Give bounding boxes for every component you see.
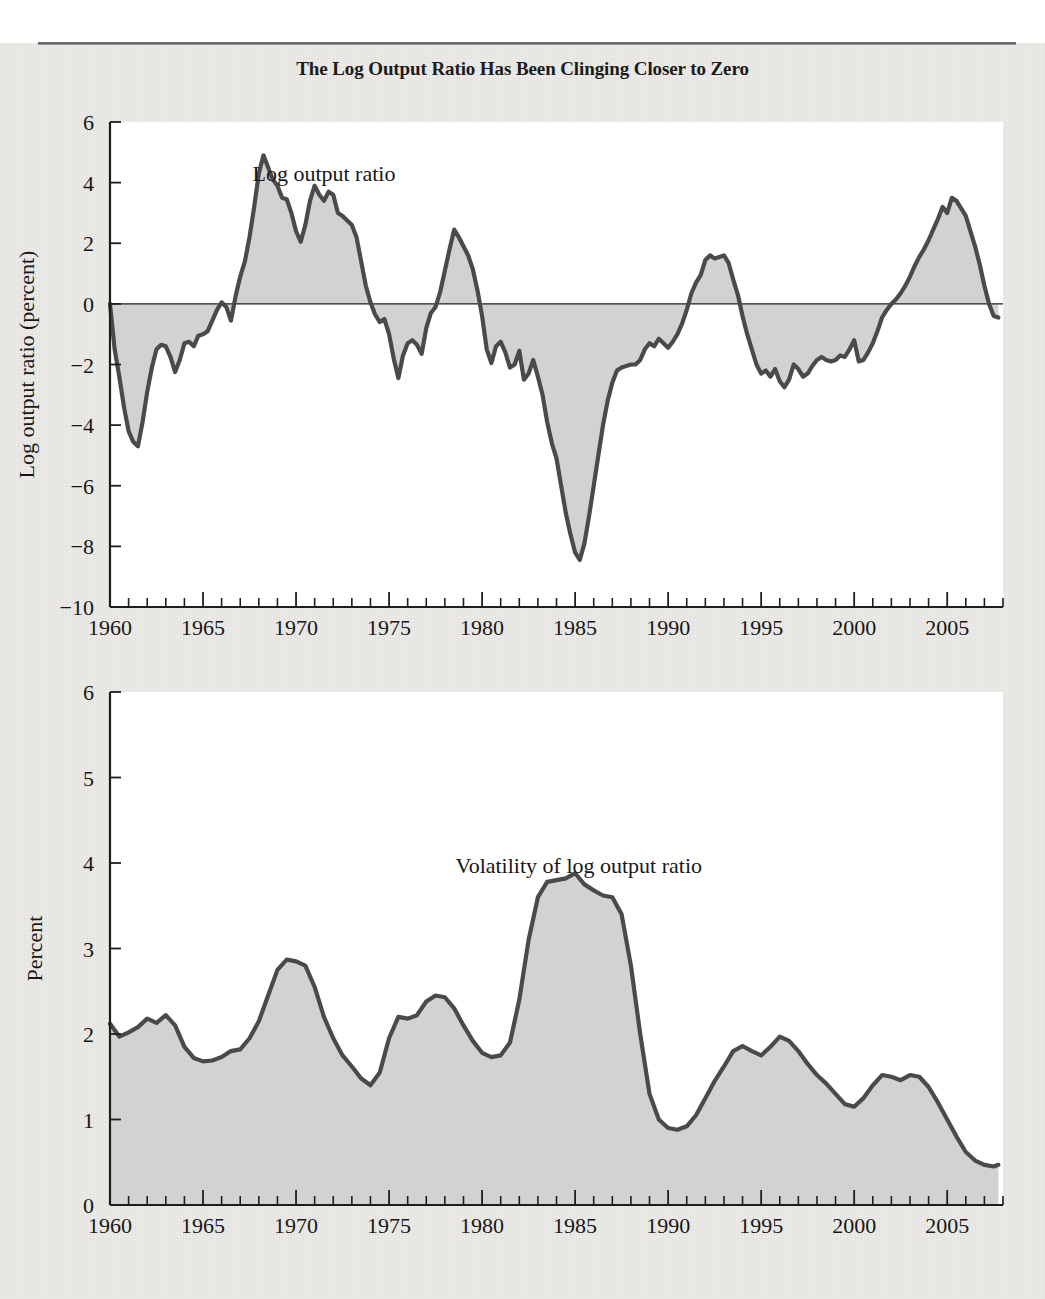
- x-tick-label: 1975: [367, 615, 411, 640]
- y-tick-label: 1: [83, 1108, 94, 1133]
- y-tick-label: 2: [83, 1022, 94, 1047]
- x-tick-label: 1985: [553, 615, 597, 640]
- x-tick-label: 1960: [88, 1213, 132, 1238]
- chart-volatility-svg: 0123456196019651970197519801985199019952…: [0, 660, 1045, 1280]
- y-tick-label: −6: [71, 474, 94, 499]
- series-annotation-label: Volatility of log output ratio: [456, 853, 702, 878]
- x-tick-label: 1995: [739, 1213, 783, 1238]
- top-margin: [0, 0, 1045, 43]
- x-tick-label: 1970: [274, 615, 318, 640]
- y-tick-label: 0: [83, 292, 94, 317]
- figure-title: The Log Output Ratio Has Been Clinging C…: [0, 58, 1045, 80]
- x-tick-label: 1995: [739, 615, 783, 640]
- y-tick-label: 3: [83, 937, 94, 962]
- y-axis-title: Log output ratio (percent): [14, 251, 39, 479]
- y-axis-title: Percent: [22, 916, 47, 982]
- figure-page: The Log Output Ratio Has Been Clinging C…: [0, 0, 1045, 1299]
- chart-log-output-ratio: 6420−2−4−6−8−101960196519701975198019851…: [0, 100, 1045, 645]
- y-tick-label: −8: [71, 534, 94, 559]
- x-tick-label: 1960: [88, 615, 132, 640]
- header-rule: [38, 42, 1016, 45]
- y-tick-label: 6: [83, 680, 94, 705]
- x-tick-label: 1965: [181, 1213, 225, 1238]
- x-tick-label: 1990: [646, 615, 690, 640]
- x-tick-label: 1985: [553, 1213, 597, 1238]
- chart-volatility: 0123456196019651970197519801985199019952…: [0, 660, 1045, 1280]
- y-tick-label: 4: [83, 851, 94, 876]
- y-tick-label: −2: [71, 353, 94, 378]
- y-tick-label: 4: [83, 171, 94, 196]
- x-tick-label: 2000: [832, 1213, 876, 1238]
- y-tick-label: 2: [83, 231, 94, 256]
- x-tick-label: 1975: [367, 1213, 411, 1238]
- x-tick-label: 1970: [274, 1213, 318, 1238]
- series-annotation-label: Log output ratio: [252, 161, 395, 186]
- chart-log-output-ratio-svg: 6420−2−4−6−8−101960196519701975198019851…: [0, 100, 1045, 645]
- x-tick-label: 1965: [181, 615, 225, 640]
- x-tick-label: 2000: [832, 615, 876, 640]
- y-tick-label: 6: [83, 110, 94, 135]
- x-tick-label: 1990: [646, 1213, 690, 1238]
- x-tick-label: 2005: [925, 1213, 969, 1238]
- x-tick-label: 1980: [460, 1213, 504, 1238]
- y-tick-label: −4: [71, 413, 94, 438]
- x-tick-label: 2005: [925, 615, 969, 640]
- y-tick-label: 5: [83, 766, 94, 791]
- x-tick-label: 1980: [460, 615, 504, 640]
